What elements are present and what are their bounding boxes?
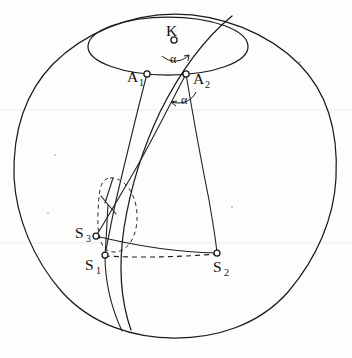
point-marker-A1[interactable]: [144, 71, 150, 77]
arc-S3-S2: [96, 236, 217, 253]
paper-speck: [231, 206, 233, 208]
diagram-canvas: K A 1 A 2 S 3 S 1 S 2 α α: [0, 0, 352, 358]
construction-tick-upper: [105, 178, 113, 203]
point-marker-S2[interactable]: [214, 250, 220, 256]
label-A2-group: A 2: [193, 70, 210, 90]
label-A1: A: [127, 68, 139, 85]
angle-arrow-at-A2: [171, 101, 177, 106]
point-marker-A2[interactable]: [183, 71, 189, 77]
label-S3-group: S 3: [75, 224, 91, 244]
point-marker-S1[interactable]: [102, 252, 108, 258]
angle-label-alpha-A2: α: [181, 93, 188, 107]
label-A1-subscript: 1: [139, 77, 144, 88]
label-A2: A: [193, 70, 205, 87]
paper-speck: [54, 154, 56, 156]
label-S3-subscript: 3: [86, 233, 91, 244]
label-S2-group: S 2: [213, 258, 229, 278]
meridian-arc-A2-S2: [186, 74, 217, 253]
spherical-geometry-figure: K A 1 A 2 S 3 S 1 S 2 α α: [0, 0, 352, 358]
meridian-arc-A1-S1: [105, 74, 147, 255]
label-S2-subscript: 2: [224, 267, 229, 278]
point-marker-S3[interactable]: [93, 233, 99, 239]
great-circle-arc: [121, 16, 232, 330]
paper-speck: [299, 61, 301, 63]
label-S1-subscript: 1: [96, 265, 101, 276]
label-S2: S: [213, 258, 222, 275]
paper-speck: [47, 212, 49, 214]
label-S3: S: [75, 224, 84, 241]
label-S1: S: [85, 256, 94, 273]
meridian-arc-S1-lower: [105, 255, 122, 331]
label-S1-group: S 1: [85, 256, 101, 276]
label-K: K: [166, 22, 178, 39]
label-A1-group: A 1: [127, 68, 144, 88]
label-A2-subscript: 2: [205, 79, 210, 90]
angle-label-alpha-K: α: [170, 52, 177, 66]
